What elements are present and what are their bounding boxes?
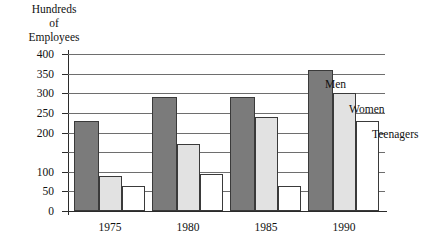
tick-mark-150 xyxy=(62,152,68,153)
tick-mark-250: 250 xyxy=(62,113,68,114)
y-axis-title: Hundreds of Employees xyxy=(8,2,100,44)
tick-label-250: 250 xyxy=(37,107,54,119)
tick-mark-0: 0 xyxy=(62,211,68,212)
tick-label-300: 300 xyxy=(37,87,54,99)
tick-label-350: 350 xyxy=(37,68,54,80)
legend-label-women: Women xyxy=(349,103,384,115)
bar-group-1975: 1975 xyxy=(74,54,146,211)
bar-1985-women xyxy=(255,117,278,211)
tick-mark-400: 400 xyxy=(62,54,68,55)
bar-1990-men xyxy=(308,70,333,211)
legend-label-men: Men xyxy=(325,78,346,90)
x-axis-label-1975: 1975 xyxy=(74,221,146,233)
bar-1980-men xyxy=(152,97,177,211)
tick-label-0: 0 xyxy=(48,205,54,217)
bar-group-1980: 1980 xyxy=(152,54,224,211)
tick-mark-200: 200 xyxy=(62,133,68,134)
tick-label-200: 200 xyxy=(37,127,54,139)
bar-1985-men xyxy=(230,97,255,211)
bar-1980-teenagers xyxy=(200,174,223,211)
tick-label-100: 100 xyxy=(37,166,54,178)
tick-mark-350: 350 xyxy=(62,74,68,75)
tick-mark-300: 300 xyxy=(62,93,68,94)
bar-group-1985: 1985 xyxy=(230,54,302,211)
x-axis-label-1980: 1980 xyxy=(152,221,224,233)
bar-1975-men xyxy=(74,121,99,211)
bar-1980-women xyxy=(177,144,200,211)
tick-label-400: 400 xyxy=(37,48,54,60)
legend-label-teenagers: Teenagers xyxy=(372,128,418,140)
bar-chart: Hundreds of Employees 400 350 300 xyxy=(0,0,443,247)
tick-mark-50: 50 xyxy=(62,191,68,192)
bar-1975-women xyxy=(99,176,122,211)
y-axis-title-line-2: of xyxy=(8,16,100,30)
tick-label-50: 50 xyxy=(43,185,55,197)
y-axis-title-line-3: Employees xyxy=(8,30,100,44)
x-axis-label-1990: 1990 xyxy=(308,221,380,233)
x-axis-label-1985: 1985 xyxy=(230,221,302,233)
x-axis-line xyxy=(62,211,387,212)
bar-1975-teenagers xyxy=(122,186,145,212)
bar-1985-teenagers xyxy=(278,186,301,212)
y-axis-title-line-1: Hundreds xyxy=(8,2,100,16)
tick-mark-100: 100 xyxy=(62,172,68,173)
